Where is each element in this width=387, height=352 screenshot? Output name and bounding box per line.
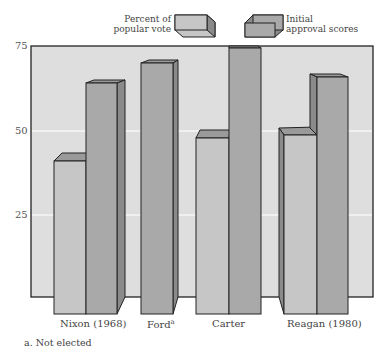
legend-approval-label: Initial approval scores: [286, 14, 386, 34]
legend-swatch-popular-vote: [175, 15, 215, 37]
bar-carter-popular-vote: [196, 130, 230, 314]
footnote: a. Not elected: [24, 337, 92, 348]
legend-popular-vote-line1: Percent of: [112, 14, 171, 24]
x-label-reagan: Reagan (1980): [287, 318, 362, 329]
legend-approval-line2: approval scores: [286, 24, 386, 34]
x-label-ford: Forda: [147, 318, 175, 330]
legend-swatch-approval: [245, 15, 283, 37]
legend-popular-vote-label: Percent of popular vote: [112, 14, 171, 34]
bar-ford-approval: [141, 60, 178, 314]
x-label-ford-text: Ford: [147, 319, 171, 330]
chart-canvas: [0, 0, 387, 352]
bar-carter-approval: [229, 46, 261, 314]
x-label-ford-superscript: a: [171, 318, 175, 326]
y-tick-25: 25: [15, 209, 28, 220]
bar-reagan-popular-vote: [279, 127, 317, 314]
legend-popular-vote-line2: popular vote: [112, 24, 171, 34]
x-label-nixon: Nixon (1968): [60, 318, 126, 329]
x-label-carter: Carter: [212, 318, 245, 329]
bar-nixon-approval: [86, 80, 125, 314]
legend-approval-line1: Initial: [286, 14, 386, 24]
y-tick-50: 50: [15, 125, 28, 136]
y-tick-75: 75: [15, 40, 28, 51]
